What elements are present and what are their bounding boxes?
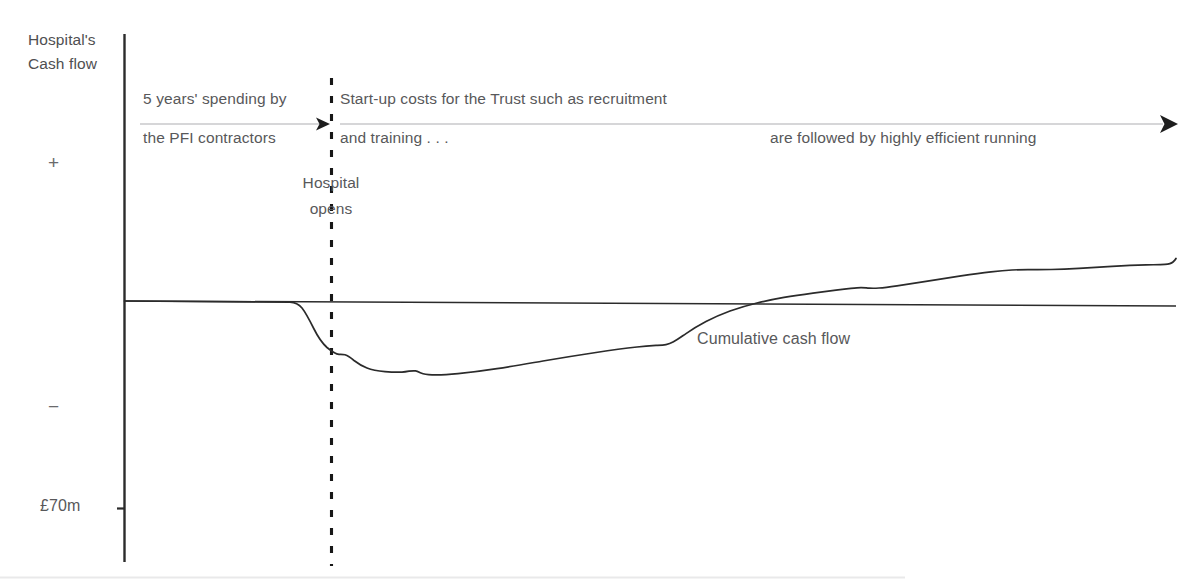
y-axis-value-label-70m: £70m xyxy=(40,497,80,515)
annotation-pre-line1: 5 years' spending by xyxy=(143,90,287,108)
y-axis-negative-label: − xyxy=(48,396,59,418)
figure-canvas xyxy=(0,0,1200,582)
annotation-post-line1: Start-up costs for the Trust such as rec… xyxy=(340,90,667,108)
cumulative-cash-flow-curve xyxy=(125,259,1177,375)
annotation-post-line2: and training . . . xyxy=(340,129,449,147)
y-axis-title-line1: Hospital's xyxy=(28,28,96,52)
y-axis-positive-label: + xyxy=(48,152,59,174)
hospital-opens-label-line2: opens xyxy=(310,196,353,222)
annotation-end: are followed by highly efficient running xyxy=(770,129,1037,147)
hospital-opens-label-line1: Hospital xyxy=(303,170,360,196)
cash-flow-figure: Hospital's Cash flow + − £70m 5 years' s… xyxy=(0,0,1200,582)
annotation-pre-line2: the PFI contractors xyxy=(143,129,276,147)
y-axis-title-line2: Cash flow xyxy=(28,52,97,76)
series-label-cumulative-cash-flow: Cumulative cash flow xyxy=(697,330,850,348)
